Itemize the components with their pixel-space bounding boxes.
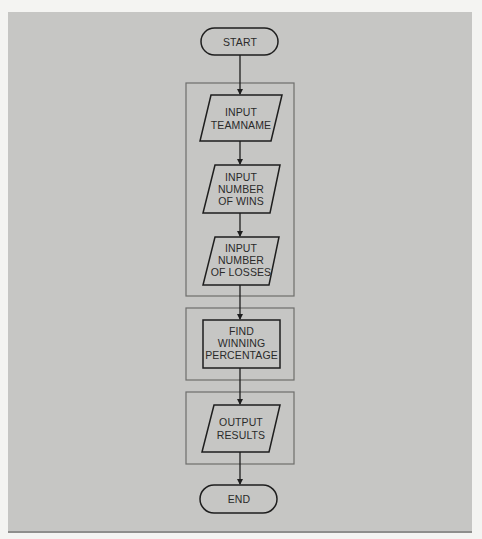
input-teamname-node: INPUT TEAMNAME bbox=[200, 95, 282, 141]
node-line: OF LOSSES bbox=[211, 266, 271, 278]
node-line: NUMBER bbox=[218, 183, 264, 195]
end-label: END bbox=[228, 493, 251, 505]
node-line: INPUT bbox=[225, 171, 257, 183]
node-line: PERCENTAGE bbox=[205, 349, 278, 361]
input-losses-node: INPUT NUMBER OF LOSSES bbox=[203, 237, 279, 285]
flowchart: START INPUT TEAMNAME INPUT NUMBER OF WIN… bbox=[0, 0, 482, 539]
start-terminator: START bbox=[201, 28, 278, 55]
node-line: FIND bbox=[229, 325, 254, 337]
node-line: NUMBER bbox=[218, 254, 264, 266]
end-terminator: END bbox=[200, 485, 277, 513]
start-label: START bbox=[223, 36, 257, 48]
find-percentage-node: FIND WINNING PERCENTAGE bbox=[203, 320, 280, 368]
node-line: TEAMNAME bbox=[211, 119, 271, 131]
node-line: INPUT bbox=[225, 106, 257, 118]
node-line: OUTPUT bbox=[219, 416, 263, 428]
input-wins-node: INPUT NUMBER OF WINS bbox=[203, 165, 280, 213]
node-line: RESULTS bbox=[217, 429, 265, 441]
output-results-node: OUTPUT RESULTS bbox=[202, 405, 280, 452]
node-line: WINNING bbox=[218, 337, 265, 349]
node-line: OF WINS bbox=[218, 195, 264, 207]
node-line: INPUT bbox=[225, 242, 257, 254]
